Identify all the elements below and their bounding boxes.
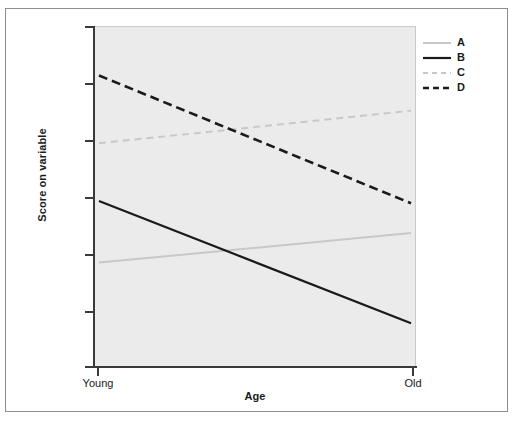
legend-label-d: D [457, 82, 465, 93]
y-axis-title: Score on variable [36, 95, 48, 255]
series-line-d [99, 75, 411, 203]
y-axis-tick [85, 197, 94, 199]
legend-item-a[interactable]: A [422, 35, 488, 50]
y-axis-tick [85, 83, 94, 85]
x-axis-tick [412, 367, 414, 376]
plot-area [94, 26, 416, 367]
legend-line-icon-d [422, 82, 452, 94]
legend: A B C D [420, 29, 492, 101]
series-line-a [99, 233, 411, 262]
plot-lines-svg [95, 27, 415, 366]
legend-label-a: A [457, 37, 465, 48]
y-axis-tick [85, 140, 94, 142]
legend-item-d[interactable]: D [422, 80, 488, 95]
x-axis-title: Age [94, 390, 416, 402]
legend-line-icon-a [422, 37, 452, 49]
x-axis-line [93, 366, 417, 368]
y-axis-tick [85, 254, 94, 256]
y-axis-tick [85, 26, 94, 28]
x-tick-label-old: Old [404, 377, 421, 389]
legend-label-c: C [457, 67, 465, 78]
legend-label-b: B [457, 52, 465, 63]
series-line-b [99, 201, 411, 323]
figure-frame: Score on variable Age Young Old A B [5, 8, 508, 412]
legend-item-c[interactable]: C [422, 65, 488, 80]
legend-line-icon-b [422, 52, 452, 64]
legend-item-b[interactable]: B [422, 50, 488, 65]
x-axis-tick [97, 367, 99, 376]
x-tick-label-young: Young [83, 377, 114, 389]
y-axis-tick [85, 311, 94, 313]
legend-line-icon-c [422, 67, 452, 79]
y-axis-tick [85, 366, 94, 368]
